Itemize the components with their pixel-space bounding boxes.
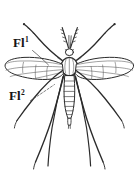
label-fl1-superscript: 1 <box>25 35 29 44</box>
label-fl2: Fl2 <box>9 89 25 102</box>
label-fl1-text: Fl <box>13 35 25 50</box>
head <box>65 49 73 56</box>
foreleg-left-tarsus <box>23 23 25 25</box>
abdomen-outline <box>64 76 75 119</box>
label-fl1: Fl1 <box>13 36 29 49</box>
insect-illustration <box>0 0 138 170</box>
terminalia <box>68 119 71 126</box>
head-group <box>65 49 74 56</box>
label-fl2-text: Fl <box>9 88 21 103</box>
label-fl2-superscript: 2 <box>21 88 25 97</box>
insect-figure: Fl1 Fl2 <box>0 0 138 170</box>
foreleg-right-tarsus <box>113 23 115 25</box>
